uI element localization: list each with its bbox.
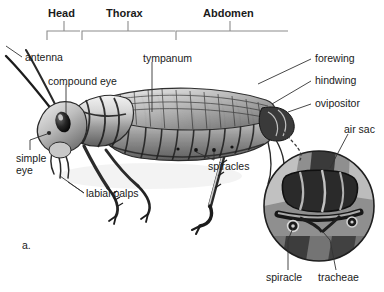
- callout-label-labial-palps: labial palps: [86, 188, 139, 200]
- figure-canvas: Head Thorax Abdomen antenna compound eye…: [0, 0, 384, 292]
- region-brackets: [47, 21, 288, 40]
- callout-label-compound-eye: compound eye: [48, 76, 117, 88]
- bracket-label-thorax: Thorax: [106, 8, 143, 20]
- callout-label-hindwing: hindwing: [315, 75, 356, 87]
- bracket-label-abdomen: Abdomen: [203, 8, 254, 20]
- callout-label-antenna: antenna: [25, 52, 63, 64]
- callout-label-spiracle: spiracle: [266, 272, 302, 284]
- callout-label-forewing: forewing: [315, 53, 355, 65]
- callout-label-tympanum: tympanum: [143, 53, 192, 65]
- callout-label-tracheae: tracheae: [318, 272, 359, 284]
- panel-label: a.: [22, 239, 31, 251]
- annotation-lines: [0, 0, 384, 292]
- callout-label-simple-eye: simple eye: [16, 152, 46, 176]
- callout-label-ovipositor: ovipositor: [315, 98, 360, 110]
- callout-label-air-sac: air sac: [344, 124, 375, 136]
- bracket-label-head: Head: [48, 8, 75, 20]
- callout-label-spiracles: spiracles: [208, 161, 249, 173]
